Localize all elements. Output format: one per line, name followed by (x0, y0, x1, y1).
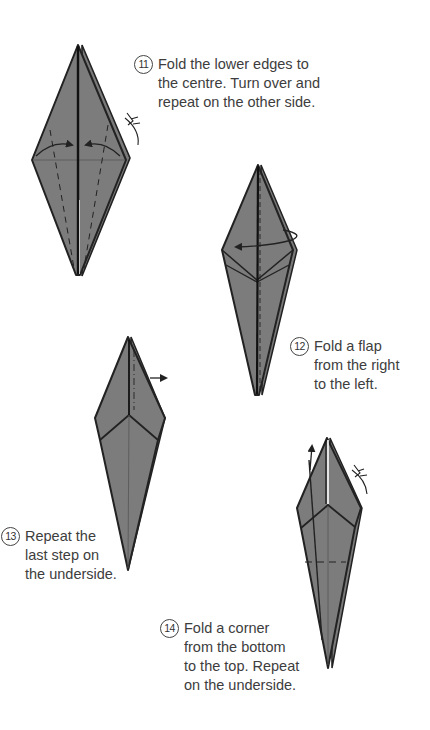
step-12-instruction: 12 Fold a flap from the right to the lef… (290, 337, 399, 394)
instruction-line: last step on (25, 546, 117, 565)
step-number-badge: 14 (160, 619, 179, 638)
instruction-line: to the left. (314, 375, 399, 394)
instruction-line: to the top. Repeat (184, 657, 299, 676)
instruction-line: the underside. (25, 565, 117, 584)
step-11-diagram (32, 45, 140, 276)
instruction-line: the centre. Turn over and (158, 74, 320, 93)
step-11-instruction: 11 Fold the lower edges to the centre. T… (134, 55, 320, 112)
turn-over-icon (125, 113, 140, 145)
step-12-diagram (222, 165, 297, 395)
step-number-badge: 13 (1, 527, 20, 546)
fold-arrow (310, 446, 312, 470)
instruction-line: Fold the lower edges to (158, 55, 320, 74)
instruction-line: from the bottom (184, 638, 299, 657)
instruction-line: from the right (314, 356, 399, 375)
step-number-badge: 11 (134, 55, 153, 74)
instruction-line: repeat on the other side. (158, 93, 320, 112)
step-14-diagram (297, 438, 367, 668)
step-13-instruction: 13 Repeat the last step on the underside… (1, 527, 117, 584)
instruction-line: on the underside. (184, 676, 299, 695)
instruction-line: Fold a corner (184, 619, 299, 638)
step-number-badge: 12 (290, 337, 309, 356)
step-14-instruction: 14 Fold a corner from the bottom to the … (160, 619, 299, 695)
instruction-line: Fold a flap (314, 337, 399, 356)
instruction-line: Repeat the (25, 527, 117, 546)
